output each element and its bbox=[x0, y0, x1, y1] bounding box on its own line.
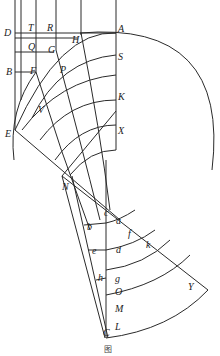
label-B: B bbox=[6, 66, 12, 77]
geometric-construction-diagram: D T R H A Q G S B F P V K E X N c a b f … bbox=[0, 0, 220, 356]
label-F: F bbox=[29, 65, 37, 76]
label-S: S bbox=[118, 51, 123, 62]
label-e: e bbox=[92, 245, 97, 256]
label-O: O bbox=[115, 286, 122, 297]
label-g: g bbox=[115, 273, 120, 284]
label-Y: Y bbox=[188, 281, 195, 292]
label-H: H bbox=[71, 34, 80, 45]
label-d: d bbox=[116, 244, 122, 255]
label-c: c bbox=[104, 207, 109, 218]
label-a: a bbox=[116, 215, 121, 226]
label-h: h bbox=[98, 272, 103, 283]
label-N: N bbox=[61, 181, 70, 192]
label-P: P bbox=[59, 64, 66, 75]
label-G: G bbox=[48, 44, 55, 55]
label-Q: Q bbox=[28, 41, 36, 52]
label-R: R bbox=[46, 22, 53, 33]
label-k: k bbox=[146, 239, 151, 250]
label-M: M bbox=[114, 303, 124, 314]
label-A: A bbox=[117, 23, 125, 34]
label-C: C bbox=[103, 327, 110, 338]
label-K: K bbox=[117, 91, 126, 102]
label-T: T bbox=[28, 22, 35, 33]
figure-caption: 图 bbox=[104, 345, 112, 354]
label-D: D bbox=[3, 27, 12, 38]
label-b: b bbox=[87, 221, 92, 232]
label-X: X bbox=[117, 125, 125, 136]
label-E: E bbox=[4, 128, 11, 139]
label-L: L bbox=[114, 321, 121, 332]
